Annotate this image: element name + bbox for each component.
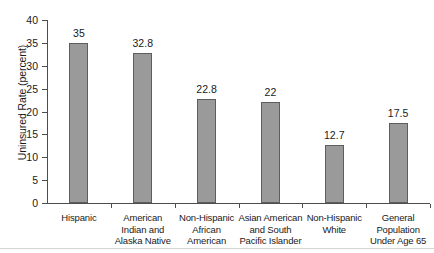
y-tick-mark [42, 43, 47, 44]
x-category-label-line: Indian and [109, 224, 177, 236]
x-category-label-line: Asian American [236, 212, 304, 224]
x-category-label: GeneralPopulationUnder Age 65 [364, 212, 432, 247]
x-tick-mark [175, 204, 176, 208]
y-tick-label: 40 [8, 15, 38, 25]
bar [69, 43, 88, 203]
x-tick-mark [430, 204, 431, 208]
x-category-label: Non-HispanicAfricanAmerican [173, 212, 241, 247]
y-tick-mark [42, 134, 47, 135]
y-tick-label: 0 [8, 198, 38, 208]
bar [197, 99, 216, 203]
x-tick-mark [302, 204, 303, 208]
y-tick-label: 15 [8, 129, 38, 139]
y-tick-mark [42, 89, 47, 90]
bar-value-label: 12.7 [304, 130, 364, 141]
x-category-label-line: Under Age 65 [364, 235, 432, 247]
y-tick-label: 25 [8, 84, 38, 94]
bar [389, 123, 408, 203]
y-tick-mark [42, 20, 47, 21]
bar-value-label: 35 [49, 28, 109, 39]
bar-value-label: 32.8 [113, 38, 173, 49]
bar [261, 102, 280, 203]
y-tick-label: 10 [8, 152, 38, 162]
y-tick-mark [42, 157, 47, 158]
y-tick-label: 35 [8, 38, 38, 48]
y-axis-title: Uninsured Rate (percent) [14, 1, 30, 204]
x-tick-mark [239, 204, 240, 208]
x-category-label-line: Alaska Native [109, 235, 177, 247]
bar-value-label: 17.5 [368, 108, 428, 119]
bar [133, 53, 152, 203]
x-tick-mark [111, 204, 112, 208]
y-tick-mark [42, 66, 47, 67]
x-category-label-line: African [173, 224, 241, 236]
x-category-label-line: Hispanic [45, 212, 113, 224]
x-category-label-line: General [364, 212, 432, 224]
bar-chart: Uninsured Rate (percent) 051015202530354… [0, 0, 434, 253]
x-category-label-line: Non-Hispanic [300, 212, 368, 224]
y-tick-label: 20 [8, 107, 38, 117]
y-axis-line [47, 20, 48, 204]
y-tick-mark [42, 180, 47, 181]
x-category-label-line: Pacific Islander [236, 235, 304, 247]
y-tick-mark [42, 203, 47, 204]
x-category-label-line: Population [364, 224, 432, 236]
x-category-label: Non-HispanicWhite [300, 212, 368, 235]
y-tick-mark [42, 112, 47, 113]
x-tick-mark [366, 204, 367, 208]
x-category-label: Asian Americanand SouthPacific Islander [236, 212, 304, 247]
x-category-label-line: White [300, 224, 368, 236]
x-category-label-line: American [109, 212, 177, 224]
x-category-label-line: Non-Hispanic [173, 212, 241, 224]
x-category-label: AmericanIndian andAlaska Native [109, 212, 177, 247]
x-category-label-line: American [173, 235, 241, 247]
bar-value-label: 22 [240, 87, 300, 98]
y-tick-label: 30 [8, 61, 38, 71]
bar [325, 145, 344, 203]
y-tick-label: 5 [8, 175, 38, 185]
bar-value-label: 22.8 [177, 84, 237, 95]
page-rule-line [0, 248, 434, 249]
x-category-label-line: and South [236, 224, 304, 236]
x-category-label: Hispanic [45, 212, 113, 224]
